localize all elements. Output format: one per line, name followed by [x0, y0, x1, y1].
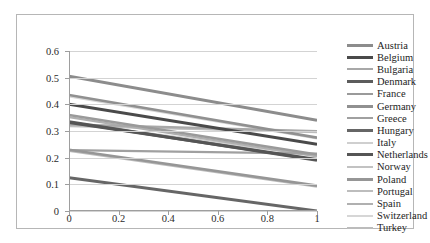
chart-frame: 00.10.20.30.40.50.6 00.20.40.60.81 Austr… [16, 14, 414, 229]
legend-label: Turkey [377, 222, 407, 233]
gridline-y-0.2 [69, 158, 317, 159]
legend-item-turkey[interactable]: Turkey [347, 222, 430, 234]
gridline-y-0.5 [69, 78, 317, 79]
legend-label: Bulgaria [377, 64, 413, 75]
legend-swatch-icon-denmark [347, 80, 373, 83]
legend-label: Hungary [377, 125, 414, 136]
y-tick-0.3 [65, 131, 69, 132]
legend-swatch-icon-poland [347, 178, 373, 181]
x-axis-label-0: 0 [66, 213, 71, 224]
plot-lines-container [69, 51, 317, 211]
legend-label: France [377, 88, 406, 99]
y-axis-label-0: 0 [54, 206, 59, 217]
legend-label: Spain [377, 198, 401, 209]
x-axis-label-0.4: 0.4 [162, 213, 175, 224]
legend-item-france[interactable]: France [347, 88, 430, 100]
plot-area [69, 51, 317, 211]
legend-swatch-icon-spain [347, 203, 373, 205]
y-axis-label-0.4: 0.4 [46, 99, 59, 110]
legend-swatch-icon-austria [347, 44, 373, 47]
y-axis-label-0.3: 0.3 [46, 126, 59, 137]
legend-item-portugal[interactable]: Portugal [347, 185, 430, 197]
legend-swatch-icon-turkey [347, 227, 373, 229]
legend-swatch-icon-norway [347, 166, 373, 168]
legend-item-austria[interactable]: Austria [347, 39, 430, 51]
chart-screenshot: 00.10.20.30.40.50.6 00.20.40.60.81 Austr… [0, 0, 430, 243]
legend-swatch-icon-greece [347, 117, 373, 119]
legend-item-switzerland[interactable]: Switzerland [347, 210, 430, 222]
y-axis-line [69, 51, 70, 211]
legend-label: Portugal [377, 186, 413, 197]
legend-item-hungary[interactable]: Hungary [347, 124, 430, 136]
x-axis-label-1: 1 [314, 213, 319, 224]
x-axis-label-0.6: 0.6 [211, 213, 224, 224]
y-tick-0.6 [65, 51, 69, 52]
y-tick-0.5 [65, 78, 69, 79]
legend-label: Italy [377, 137, 396, 148]
legend-label: Austria [377, 40, 408, 51]
legend-item-netherlands[interactable]: Netherlands [347, 149, 430, 161]
legend-item-belgium[interactable]: Belgium [347, 51, 430, 63]
legend-swatch-icon-portugal [347, 190, 373, 192]
series-line-hungary [69, 178, 317, 211]
legend-item-bulgaria[interactable]: Bulgaria [347, 63, 430, 75]
x-axis-label-0.2: 0.2 [112, 213, 125, 224]
legend-label: Belgium [377, 52, 413, 63]
gridline-y-0.3 [69, 131, 317, 132]
legend-item-greece[interactable]: Greece [347, 112, 430, 124]
x-axis-label-0.8: 0.8 [261, 213, 274, 224]
x-axis-tick-labels: 00.20.40.60.81 [69, 213, 317, 229]
y-axis-label-0.2: 0.2 [46, 152, 59, 163]
legend-label: Germany [377, 101, 416, 112]
y-axis-label-0.1: 0.1 [46, 179, 59, 190]
legend-item-poland[interactable]: Poland [347, 173, 430, 185]
gridline-y-0.1 [69, 184, 317, 185]
series-line-austria [69, 76, 317, 120]
chart-legend: AustriaBelgiumBulgariaDenmarkFranceGerma… [347, 39, 430, 235]
legend-swatch-icon-bulgaria [347, 68, 373, 70]
series-line-france [69, 115, 317, 154]
legend-item-italy[interactable]: Italy [347, 137, 430, 149]
legend-swatch-icon-switzerland [347, 215, 373, 217]
legend-item-germany[interactable]: Germany [347, 100, 430, 112]
legend-label: Netherlands [377, 149, 428, 160]
legend-swatch-icon-netherlands [347, 153, 373, 156]
legend-swatch-icon-germany [347, 105, 373, 108]
legend-item-spain[interactable]: Spain [347, 197, 430, 209]
legend-item-denmark[interactable]: Denmark [347, 76, 430, 88]
legend-item-norway[interactable]: Norway [347, 161, 430, 173]
gridline-y-0.6 [69, 51, 317, 52]
y-axis-tick-labels: 00.10.20.30.40.50.6 [17, 51, 65, 211]
legend-swatch-icon-italy [347, 142, 373, 144]
y-tick-0.1 [65, 184, 69, 185]
legend-label: Greece [377, 113, 407, 124]
y-axis-label-0.5: 0.5 [46, 72, 59, 83]
legend-swatch-icon-belgium [347, 56, 373, 59]
legend-label: Denmark [377, 76, 416, 87]
y-tick-0.4 [65, 104, 69, 105]
legend-label: Poland [377, 174, 406, 185]
legend-label: Norway [377, 161, 411, 172]
gridline-y-0.4 [69, 104, 317, 105]
legend-swatch-icon-france [347, 93, 373, 95]
legend-label: Switzerland [377, 210, 427, 221]
legend-swatch-icon-hungary [347, 129, 373, 132]
y-axis-label-0.6: 0.6 [46, 46, 59, 57]
y-tick-0.2 [65, 158, 69, 159]
